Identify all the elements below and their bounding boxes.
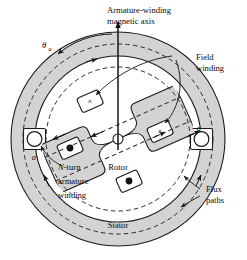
label-coil-side-a: a (32, 152, 36, 162)
field-current-into-page-symbol: × (88, 96, 93, 106)
label-theta-subscript: a (49, 46, 52, 52)
label-field-winding-line1: Field (196, 52, 214, 62)
label-stator: Stator (108, 220, 129, 230)
label-rotor: Rotor (108, 162, 128, 172)
current-out-of-page-dot (126, 178, 133, 185)
armature-slot-left (24, 129, 46, 150)
label-flux-paths-line2: paths (206, 195, 225, 205)
conductor-minus-a-circle (194, 132, 209, 147)
label-theta: θ (42, 40, 47, 50)
label-magnetic-axis-line1: Armature-winding (107, 5, 172, 15)
label-field-winding-line2: winding (196, 63, 225, 73)
figure-canvas: × × (0, 0, 247, 260)
label-armature-line2: armature (58, 176, 89, 186)
label-coil-side-minus-a: −a (191, 123, 201, 133)
label-magnetic-axis-line2: magnetic axis (107, 16, 155, 26)
label-armature-turn: -turn (64, 162, 81, 172)
label-armature-line3: winding (58, 190, 87, 200)
label-flux-paths-line1: Flux (206, 184, 222, 194)
machine-cross-section-diagram: × × (0, 0, 247, 260)
svg-text:N-turn: N-turn (57, 162, 81, 172)
conductor-a-circle (27, 132, 42, 147)
